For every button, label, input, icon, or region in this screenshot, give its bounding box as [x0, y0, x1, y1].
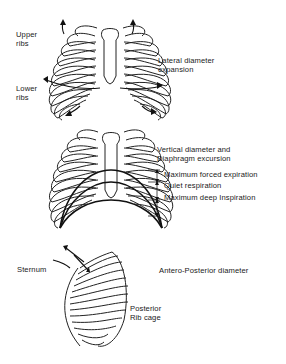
- label-lower-ribs: Lower ribs: [16, 84, 37, 102]
- label-max-deep-inspiration: Maximum deep Inspiration: [164, 193, 255, 202]
- label-max-forced-expiration: Maximum forced expiration: [164, 170, 258, 179]
- label-quiet-respiration: Quiet respiration: [164, 181, 221, 190]
- label-upper-ribs: Upper ribs: [16, 30, 37, 48]
- label-posterior-rib-cage: Posterior Rib cage: [130, 304, 161, 322]
- label-vertical-diameter: Vertical diameter and Diaphragm excursio…: [157, 145, 231, 163]
- label-antero-posterior: Antero-Posterior diameter: [159, 266, 248, 275]
- ribcage-side-view: [53, 245, 128, 346]
- label-lateral-diameter: Lateral diameter expansion: [158, 56, 214, 74]
- ribcage-front-lateral: [43, 19, 171, 120]
- label-sternum: Sternum: [17, 265, 46, 274]
- ribcage-front-vertical: [49, 130, 172, 228]
